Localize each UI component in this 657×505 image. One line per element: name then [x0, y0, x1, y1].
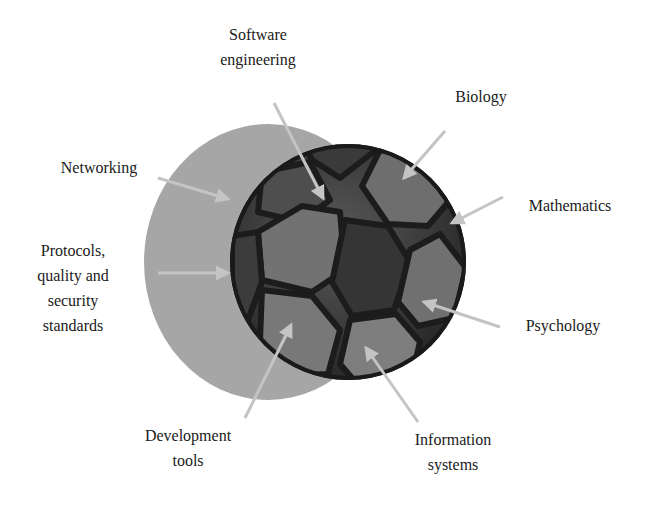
- label-line: Biology: [446, 84, 516, 109]
- label-line: Information: [398, 427, 508, 452]
- label-line: tools: [128, 448, 248, 473]
- label-line: standards: [18, 313, 128, 338]
- label-software-engineering: Software engineering: [208, 22, 308, 72]
- label-line: Networking: [44, 155, 154, 180]
- label-information-systems: Information systems: [398, 427, 508, 477]
- label-biology: Biology: [446, 84, 516, 109]
- panel: [340, 314, 420, 392]
- label-mathematics: Mathematics: [510, 193, 630, 218]
- label-line: Development: [128, 423, 248, 448]
- label-line: Mathematics: [510, 193, 630, 218]
- label-line: Software: [208, 22, 308, 47]
- label-psychology: Psychology: [508, 313, 618, 338]
- arrow-mathematics: [452, 197, 503, 223]
- label-line: systems: [398, 452, 508, 477]
- arrow-biology: [404, 131, 445, 178]
- label-line: engineering: [208, 47, 308, 72]
- label-line: Psychology: [508, 313, 618, 338]
- label-line: security: [18, 288, 128, 313]
- label-development-tools: Development tools: [128, 423, 248, 473]
- label-networking: Networking: [44, 155, 154, 180]
- label-protocols: Protocols, quality and security standard…: [18, 238, 128, 338]
- label-line: Protocols,: [18, 238, 128, 263]
- label-line: quality and: [18, 263, 128, 288]
